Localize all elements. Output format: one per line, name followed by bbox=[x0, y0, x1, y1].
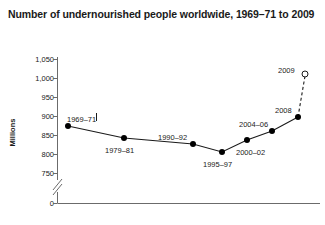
data-point-1979-81 bbox=[121, 135, 127, 141]
plot-area bbox=[0, 0, 325, 225]
chart-figure: Number of undernourished people worldwid… bbox=[0, 0, 325, 225]
y-axis-ticks bbox=[53, 60, 58, 204]
data-point-2009 bbox=[302, 71, 308, 77]
data-point-2004-06 bbox=[269, 128, 275, 134]
series-markers bbox=[65, 71, 308, 155]
series-line-dashed-2009 bbox=[298, 76, 305, 117]
data-point-2000-02 bbox=[244, 137, 250, 143]
data-point-1969-71 bbox=[65, 123, 71, 129]
data-point-1995-97 bbox=[219, 149, 225, 155]
series-line-solid bbox=[68, 117, 298, 152]
data-point-2008 bbox=[295, 114, 301, 120]
data-point-1990-92 bbox=[190, 141, 196, 147]
